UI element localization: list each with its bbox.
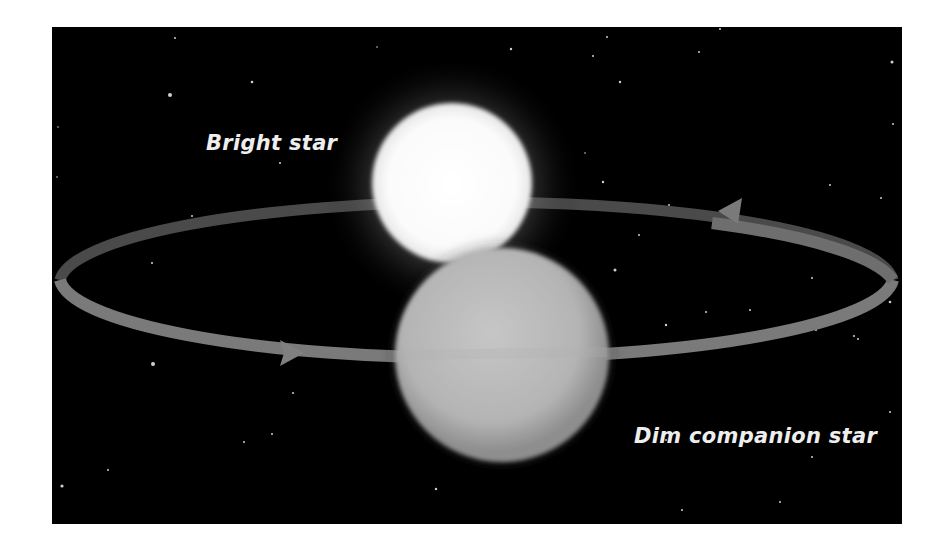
figure-page: Bright star Dim companion star <box>0 0 948 554</box>
space-background-panel: Bright star Dim companion star <box>52 27 902 524</box>
dim-star-label: Dim companion star <box>634 424 877 448</box>
binary-star-diagram <box>52 27 902 524</box>
bright-star-label: Bright star <box>206 131 337 155</box>
